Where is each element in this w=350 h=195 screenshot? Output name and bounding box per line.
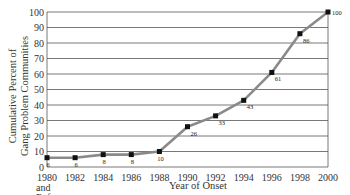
y-tick-label: 0: [39, 162, 44, 173]
data-label: 26: [191, 130, 198, 137]
data-marker: [241, 98, 246, 103]
data-marker: [297, 31, 302, 36]
y-axis-ticks: 0102030405060708090100: [29, 7, 44, 173]
y-tick-label: 60: [34, 69, 44, 80]
x-tick-label: 1994: [234, 172, 254, 183]
gridlines: [47, 12, 328, 167]
x-tick-label: 1984: [93, 172, 113, 183]
data-marker: [101, 152, 106, 157]
line-chart: 0102030405060708090100 19801982198419861…: [0, 0, 350, 195]
y-axis-title: Cumulative Percent ofGang Problem Commun…: [7, 36, 30, 156]
x-tick-label: 1996: [262, 172, 282, 183]
y-tick-label: 50: [34, 84, 44, 95]
data-marker: [213, 113, 218, 118]
x-tick-label: 1982: [65, 172, 85, 183]
y-tick-label: 30: [34, 115, 44, 126]
data-label: 43: [247, 103, 254, 110]
x-tick-label: 2000: [318, 172, 338, 183]
y-tick-label: 20: [34, 131, 44, 142]
data-marker: [73, 155, 78, 160]
data-label: 61: [275, 75, 282, 82]
x-tick-sublabel: Before: [36, 192, 64, 195]
y-tick-label: 10: [34, 146, 44, 157]
data-markers: [45, 10, 331, 161]
y-tick-label: 80: [34, 38, 44, 49]
x-tick-label: 1998: [290, 172, 310, 183]
x-tick-label: 1988: [149, 172, 169, 183]
data-label: 8: [131, 158, 134, 165]
data-label: 8: [103, 158, 106, 165]
data-label: 86: [303, 37, 310, 44]
data-marker: [185, 124, 190, 129]
data-marker: [157, 149, 162, 154]
y-tick-label: 40: [34, 100, 44, 111]
data-label: 100: [332, 9, 342, 16]
data-label: 33: [219, 119, 226, 126]
data-marker: [129, 152, 134, 157]
y-tick-label: 70: [34, 53, 44, 64]
data-marker: [45, 155, 50, 160]
data-marker: [269, 70, 274, 75]
data-label: 10: [157, 155, 164, 162]
x-axis-title: Year of Onset: [169, 180, 227, 191]
x-tick-label: 1986: [121, 172, 141, 183]
y-tick-label: 100: [29, 7, 44, 18]
y-tick-label: 90: [34, 22, 44, 33]
data-marker: [326, 10, 331, 15]
